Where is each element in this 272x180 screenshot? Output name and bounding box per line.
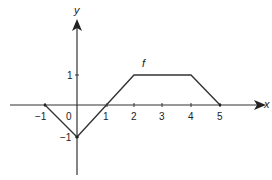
function-label: f	[142, 57, 146, 69]
x-axis-label: x	[263, 98, 270, 110]
function-graph: x y −1 0 1 2 3 4 5 1 −1 f	[0, 0, 272, 180]
x-tick-label: 0	[66, 111, 72, 122]
y-tick-label: −1	[60, 132, 72, 143]
x-tick-label: 1	[103, 111, 109, 122]
y-axis-label: y	[73, 4, 81, 16]
x-tick-label: −1	[35, 111, 47, 122]
point-marker	[44, 104, 47, 107]
x-tick-label: 2	[131, 111, 137, 122]
x-tick-label: 3	[159, 111, 165, 122]
x-tick-label: 4	[188, 111, 194, 122]
point-marker	[76, 136, 79, 139]
function-f-line	[45, 75, 220, 137]
y-tick-label: 1	[67, 70, 73, 81]
point-marker	[219, 104, 222, 107]
x-tick-label: 5	[217, 111, 223, 122]
